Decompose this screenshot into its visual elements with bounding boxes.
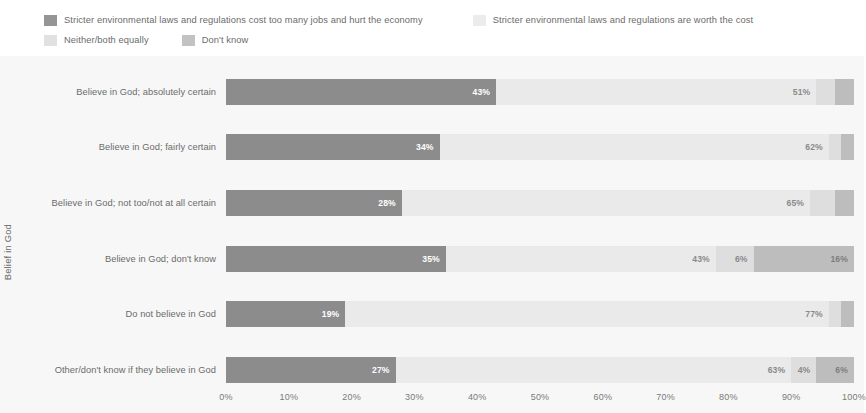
bar-segment[interactable] — [816, 79, 835, 105]
x-axis-tick-label: 80% — [719, 392, 738, 402]
bar-segment-value: 27% — [372, 365, 396, 375]
legend-item-cost-jobs[interactable]: Stricter environmental laws and regulati… — [44, 10, 423, 30]
bar-segment-value: 65% — [787, 198, 811, 208]
bar-segment[interactable]: 51% — [496, 79, 816, 105]
bar-segment[interactable] — [841, 134, 854, 160]
x-axis-tick-label: 60% — [593, 392, 612, 402]
bar-track: 27%63%4%6% — [226, 357, 854, 383]
bar-segment-value: 43% — [473, 87, 497, 97]
chart-legend: Stricter environmental laws and regulati… — [0, 0, 864, 56]
bar-segment[interactable]: 16% — [754, 246, 854, 272]
category-label: Other/don't know if they believe in God — [0, 365, 226, 375]
legend-label-dont-know: Don't know — [202, 35, 249, 45]
bar-segment[interactable]: 19% — [226, 301, 345, 327]
bar-row: Believe in God; not too/not at all certa… — [0, 175, 864, 231]
bar-segment[interactable]: 77% — [345, 301, 829, 327]
bar-row: Believe in God; absolutely certain43%51% — [0, 64, 864, 120]
bar-rows-container: Believe in God; absolutely certain43%51%… — [0, 56, 864, 386]
legend-label-neither: Neither/both equally — [64, 35, 149, 45]
x-axis-tick-label: 30% — [405, 392, 424, 402]
x-axis-tick-label: 50% — [531, 392, 550, 402]
x-axis-tick-label: 100% — [842, 392, 866, 402]
bar-segment[interactable] — [835, 190, 854, 216]
legend-item-dont-know[interactable]: Don't know — [182, 30, 249, 50]
bar-segment-value: 35% — [422, 254, 446, 264]
legend-swatch-dont-know — [182, 35, 195, 46]
bar-segment[interactable]: 35% — [226, 246, 446, 272]
bar-segment[interactable]: 65% — [402, 190, 810, 216]
bar-track: 43%51% — [226, 79, 854, 105]
bar-segment-value: 19% — [322, 309, 346, 319]
bar-segment[interactable] — [835, 79, 854, 105]
legend-label-worth-cost: Stricter environmental laws and regulati… — [493, 15, 753, 25]
x-axis-tick-label: 40% — [468, 392, 487, 402]
bar-segment[interactable]: 43% — [446, 246, 716, 272]
bar-segment-value: 62% — [805, 142, 829, 152]
category-label: Do not believe in God — [0, 309, 226, 319]
bar-row: Do not believe in God19%77% — [0, 286, 864, 342]
x-axis-tick-label: 20% — [342, 392, 361, 402]
bar-segment-value: 28% — [378, 198, 402, 208]
bar-segment-value: 34% — [416, 142, 440, 152]
bar-segment-value: 6% — [735, 254, 754, 264]
x-axis-tick-label: 70% — [656, 392, 675, 402]
legend-swatch-cost-jobs — [44, 15, 57, 26]
bar-segment-value: 77% — [805, 309, 829, 319]
bar-segment[interactable]: 6% — [816, 357, 854, 383]
bar-segment[interactable]: 6% — [716, 246, 754, 272]
bar-track: 28%65% — [226, 190, 854, 216]
x-axis-tick-label: 10% — [279, 392, 298, 402]
x-axis: 0%10%20%30%40%50%60%70%80%90%100% — [226, 386, 864, 413]
category-label: Believe in God; fairly certain — [0, 142, 226, 152]
bar-segment[interactable] — [829, 301, 842, 327]
bar-segment-value: 51% — [793, 87, 817, 97]
bar-row: Believe in God; fairly certain34%62% — [0, 120, 864, 176]
bar-segment[interactable] — [829, 134, 842, 160]
x-axis-tick-label: 0% — [219, 392, 232, 402]
legend-swatch-worth-cost — [473, 15, 486, 26]
bar-segment[interactable]: 34% — [226, 134, 440, 160]
bar-track: 35%43%6%16% — [226, 246, 854, 272]
x-axis-tick-label: 90% — [782, 392, 801, 402]
bar-segment-value: 6% — [835, 365, 854, 375]
bar-segment[interactable]: 4% — [791, 357, 816, 383]
bar-segment-value: 43% — [692, 254, 716, 264]
bar-segment-value: 63% — [768, 365, 792, 375]
legend-row-top: Stricter environmental laws and regulati… — [0, 10, 864, 30]
bar-segment[interactable] — [841, 301, 854, 327]
bar-segment[interactable]: 27% — [226, 357, 396, 383]
bar-segment[interactable]: 62% — [440, 134, 829, 160]
bar-segment[interactable]: 63% — [396, 357, 792, 383]
bar-segment[interactable] — [810, 190, 835, 216]
bar-segment-value: 16% — [830, 254, 854, 264]
bar-segment[interactable]: 28% — [226, 190, 402, 216]
bar-segment[interactable]: 43% — [226, 79, 496, 105]
category-label: Believe in God; not too/not at all certa… — [0, 198, 226, 208]
category-label: Believe in God; absolutely certain — [0, 87, 226, 97]
legend-label-cost-jobs: Stricter environmental laws and regulati… — [64, 15, 423, 25]
legend-item-worth-cost[interactable]: Stricter environmental laws and regulati… — [473, 10, 753, 30]
legend-item-neither[interactable]: Neither/both equally — [44, 30, 149, 50]
bar-track: 19%77% — [226, 301, 854, 327]
bar-row: Believe in God; don't know35%43%6%16% — [0, 231, 864, 287]
bar-track: 34%62% — [226, 134, 854, 160]
chart-plot-area: Belief in God Believe in God; absolutely… — [0, 56, 864, 413]
legend-row-bottom: Neither/both equally Don't know — [0, 30, 864, 50]
legend-swatch-neither — [44, 35, 57, 46]
category-label: Believe in God; don't know — [0, 254, 226, 264]
bar-segment-value: 4% — [798, 365, 817, 375]
